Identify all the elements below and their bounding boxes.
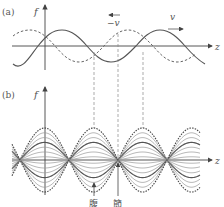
panel-a-y-axis-label: f [33,6,40,17]
node-label: 節 [113,198,122,207]
right-moving-wave [13,30,205,66]
panel-a-label: (a) [2,7,14,17]
antinode-label: 腹 [89,198,98,207]
panel-b-y-axis-label: f [33,89,40,100]
right-velocity-label: v [170,12,175,22]
panel-b: (b) f z 腹 節 [2,87,220,207]
panel-b-x-axis-label: z [214,156,220,166]
panel-a-x-axis-label: z [214,42,220,52]
left-velocity-label: −v [107,18,120,28]
standing-wave-diagram: (a) f z −v v (b) f z 腹 節 [0,0,224,207]
guide-lines [94,34,143,160]
panel-a: (a) f z −v v [2,5,220,70]
panel-b-label: (b) [2,90,15,100]
